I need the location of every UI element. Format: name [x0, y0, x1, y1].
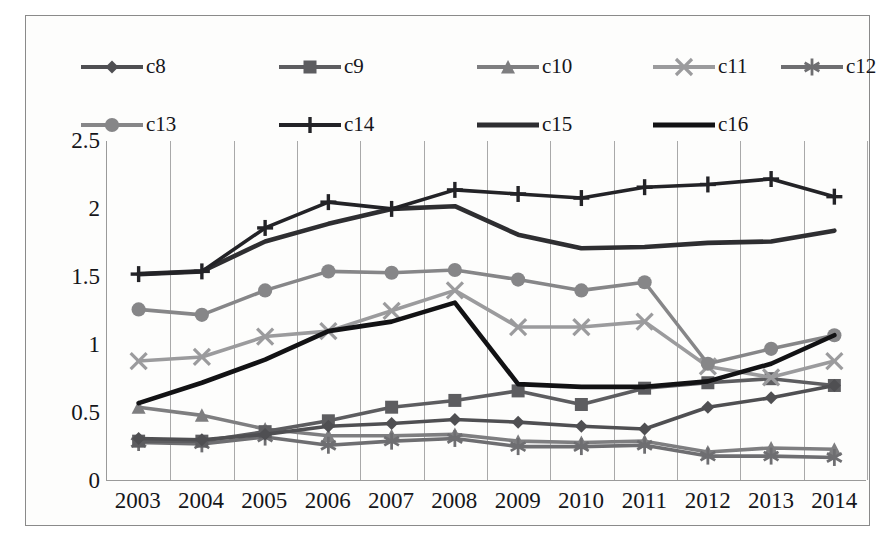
y-axis-tick-label: 1.5 — [71, 264, 100, 290]
legend-marker-triangle-icon — [497, 56, 519, 78]
legend-swatch-c14 — [279, 115, 341, 135]
x-axis-tick-label: 2009 — [495, 488, 541, 514]
legend-label-c9: c9 — [344, 54, 364, 79]
x-axis-tick-label: 2011 — [622, 488, 667, 514]
legend-item-c8[interactable]: c8 — [81, 54, 166, 79]
legend-label-c10: c10 — [542, 54, 572, 79]
legend-marker-plus-icon — [299, 114, 321, 136]
x-axis-tick-label: 2014 — [811, 488, 857, 514]
legend-label-c16: c16 — [718, 112, 748, 137]
legend-marker-asterisk-icon — [801, 56, 823, 78]
legend-row: c13c14c15c16 — [81, 83, 871, 112]
chart-series-svg — [107, 141, 866, 481]
legend-swatch-c11 — [653, 57, 715, 77]
legend-label-c11: c11 — [718, 54, 748, 79]
y-axis-tick-label: 2 — [89, 196, 101, 222]
plot-area — [106, 141, 866, 481]
legend-item-c16[interactable]: c16 — [653, 112, 748, 137]
series-c14 — [131, 171, 843, 282]
legend-label-c12: c12 — [846, 54, 876, 79]
legend-item-c10[interactable]: c10 — [477, 54, 572, 79]
legend-swatch-c15 — [477, 115, 539, 135]
legend-line-c16 — [653, 122, 715, 127]
series-c15 — [139, 206, 835, 274]
legend-swatch-c9 — [279, 57, 341, 77]
legend-label-c13: c13 — [146, 112, 176, 137]
x-axis-tick-label: 2003 — [115, 488, 161, 514]
legend-swatch-c10 — [477, 57, 539, 77]
plot-wrapper — [106, 141, 866, 481]
legend-item-c9[interactable]: c9 — [279, 54, 364, 79]
x-axis-tick-label: 2013 — [748, 488, 794, 514]
series-c16 — [139, 303, 835, 404]
y-axis-tick-label: 0 — [89, 468, 101, 494]
chart-legend: c8c9c10c11c12c13c14c15c16 — [81, 54, 871, 120]
legend-label-c15: c15 — [542, 112, 572, 137]
legend-item-c14[interactable]: c14 — [279, 112, 374, 137]
y-axis-labels: 00.511.522.5 — [44, 128, 100, 494]
x-axis-tick-label: 2007 — [368, 488, 414, 514]
legend-item-c11[interactable]: c11 — [653, 54, 748, 79]
x-axis-labels: 2003200420052006200720082009201020112012… — [106, 488, 866, 524]
legend-item-c15[interactable]: c15 — [477, 112, 572, 137]
series-c10 — [132, 400, 842, 458]
y-axis-tick-label: 1 — [89, 332, 101, 358]
y-axis-tick-label: 0.5 — [71, 400, 100, 426]
x-axis-tick-label: 2012 — [685, 488, 731, 514]
x-axis-tick-label: 2010 — [558, 488, 604, 514]
legend-line-c15 — [477, 122, 539, 127]
legend-marker-diamond-icon — [101, 56, 123, 78]
legend-label-c8: c8 — [146, 54, 166, 79]
x-axis-tick-label: 2008 — [431, 488, 477, 514]
series-c13 — [132, 263, 842, 371]
x-axis-tick-label: 2006 — [305, 488, 351, 514]
legend-label-c14: c14 — [344, 112, 374, 137]
legend-swatch-c16 — [653, 115, 715, 135]
x-axis-tick-label: 2004 — [178, 488, 224, 514]
legend-item-c12[interactable]: c12 — [781, 54, 876, 79]
legend-marker-cross-icon — [673, 56, 695, 78]
chart-frame: c8c9c10c11c12c13c14c15c16 00.511.522.5 2… — [25, 15, 870, 526]
legend-marker-square-icon — [299, 56, 321, 78]
legend-swatch-c12 — [781, 57, 843, 77]
legend-row: c8c9c10c11c12 — [81, 54, 871, 83]
legend-marker-circle-icon — [101, 114, 123, 136]
y-axis-tick-label: 2.5 — [71, 128, 100, 154]
legend-swatch-c8 — [81, 57, 143, 77]
gridline-vertical — [867, 141, 868, 480]
x-axis-tick-label: 2005 — [241, 488, 287, 514]
